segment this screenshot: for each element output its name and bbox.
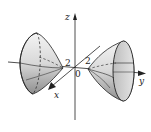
y-axis-label: y: [138, 76, 145, 86]
hyperboloid-diagram: z y x 0 2 2: [0, 0, 151, 132]
origin-label: 0: [75, 69, 81, 79]
z-axis-label: z: [64, 12, 70, 22]
left-vertex-label: 2: [65, 58, 71, 68]
hyperboloid-figure: z y x 0 2 2: [0, 0, 151, 132]
left-sheet: [20, 33, 63, 94]
right-vertex-label: 2: [85, 56, 91, 66]
x-axis-label: x: [54, 90, 59, 100]
